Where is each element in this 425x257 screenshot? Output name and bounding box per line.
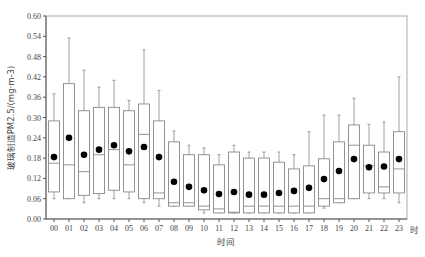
x-tick-label: 12 — [230, 224, 238, 233]
mean-dot — [66, 135, 73, 142]
mean-dot — [351, 156, 358, 163]
box-21 — [364, 124, 375, 198]
mean-dot — [171, 178, 178, 185]
mean-dot — [126, 148, 133, 155]
iqr-box — [199, 155, 210, 210]
x-tick-label: 18 — [320, 224, 328, 233]
mean-dot — [186, 184, 193, 191]
mean-dot — [51, 154, 58, 161]
y-axis-title: 玻璃制造PM2.5/(mg·m-3) — [6, 66, 16, 171]
y-tick-label: 0.18 — [27, 154, 41, 163]
mean-dot — [261, 191, 268, 198]
box-12 — [229, 145, 240, 213]
mean-dot — [381, 163, 388, 170]
x-tick-label: 10 — [200, 224, 208, 233]
mean-dot — [201, 187, 208, 194]
mean-dot — [96, 146, 103, 153]
box-16 — [289, 155, 300, 213]
y-tick-label: 0.60 — [27, 12, 41, 21]
x-tick-label: 02 — [80, 224, 88, 233]
box-04 — [109, 80, 120, 198]
x-tick-label: 17 — [305, 224, 313, 233]
box-17 — [304, 132, 315, 213]
mean-dot — [216, 191, 223, 198]
iqr-box — [184, 155, 195, 206]
x-axis-unit: 时 — [410, 225, 419, 235]
x-tick-label: 14 — [260, 224, 268, 233]
mean-dot — [111, 142, 118, 149]
box-23 — [394, 77, 405, 203]
iqr-box — [229, 152, 240, 213]
x-tick-label: 20 — [350, 224, 358, 233]
box-03 — [94, 87, 105, 199]
y-tick-label: 0.24 — [27, 134, 41, 143]
box-10 — [199, 148, 210, 213]
mean-dot — [291, 188, 298, 195]
x-tick-label: 04 — [110, 224, 118, 233]
box-19 — [334, 115, 345, 203]
y-tick-label: 0.54 — [27, 32, 41, 41]
box-02 — [79, 70, 90, 203]
iqr-box — [64, 84, 75, 199]
x-tick-label: 00 — [50, 224, 58, 233]
mean-dot — [246, 191, 253, 198]
box-00 — [49, 94, 60, 199]
box-09 — [184, 145, 195, 206]
y-tick-label: 0.42 — [27, 73, 41, 82]
box-series — [49, 38, 405, 213]
y-tick-label: 0.12 — [27, 174, 41, 183]
y-tick-label: 0.36 — [27, 93, 41, 102]
x-tick-label: 22 — [380, 224, 388, 233]
box-20 — [349, 98, 360, 198]
iqr-box — [109, 107, 120, 190]
mean-dot — [231, 189, 238, 196]
box-22 — [379, 122, 390, 199]
x-tick-label: 07 — [155, 224, 163, 233]
x-tick-label: 21 — [365, 224, 373, 233]
x-tick-label: 01 — [65, 224, 73, 233]
mean-dot — [276, 190, 283, 197]
box-14 — [259, 152, 270, 213]
box-01 — [64, 38, 75, 199]
x-tick-label: 13 — [245, 224, 253, 233]
x-tick-label: 11 — [215, 224, 223, 233]
x-tick-label: 15 — [275, 224, 283, 233]
box-08 — [169, 131, 180, 206]
y-tick-label: 0.06 — [27, 195, 41, 204]
iqr-box — [139, 104, 150, 199]
iqr-box — [169, 142, 180, 206]
x-tick-label: 09 — [185, 224, 193, 233]
mean-dot — [141, 144, 148, 151]
iqr-box — [214, 165, 225, 213]
box-18 — [319, 115, 330, 208]
box-plot-chart: 0.000.060.120.180.240.300.360.420.480.54… — [0, 0, 425, 257]
x-axis: 0001020304050607080910111213141516171819… — [50, 219, 403, 233]
x-tick-label: 23 — [395, 224, 403, 233]
x-tick-label: 05 — [125, 224, 133, 233]
y-tick-label: 0.48 — [27, 53, 41, 62]
mean-dot — [81, 151, 88, 158]
mean-dot — [321, 176, 328, 183]
x-tick-label: 08 — [170, 224, 178, 233]
y-tick-label: 0.30 — [27, 114, 41, 123]
iqr-box — [259, 158, 270, 213]
box-06 — [139, 50, 150, 203]
x-axis-title: 时间 — [217, 237, 235, 247]
x-tick-label: 16 — [290, 224, 298, 233]
x-tick-label: 06 — [140, 224, 148, 233]
box-13 — [244, 152, 255, 213]
y-tick-label: 0.00 — [27, 215, 41, 224]
x-tick-label: 03 — [95, 224, 103, 233]
box-07 — [154, 90, 165, 206]
mean-dot — [306, 185, 313, 192]
x-tick-label: 19 — [335, 224, 343, 233]
iqr-box — [244, 158, 255, 213]
box-11 — [214, 155, 225, 213]
y-axis: 0.000.060.120.180.240.300.360.420.480.54… — [27, 12, 46, 224]
mean-dot — [156, 154, 163, 161]
mean-dot — [396, 156, 403, 163]
box-15 — [274, 152, 285, 213]
mean-dot — [336, 168, 343, 175]
mean-dot — [366, 164, 373, 171]
iqr-box — [274, 162, 285, 213]
